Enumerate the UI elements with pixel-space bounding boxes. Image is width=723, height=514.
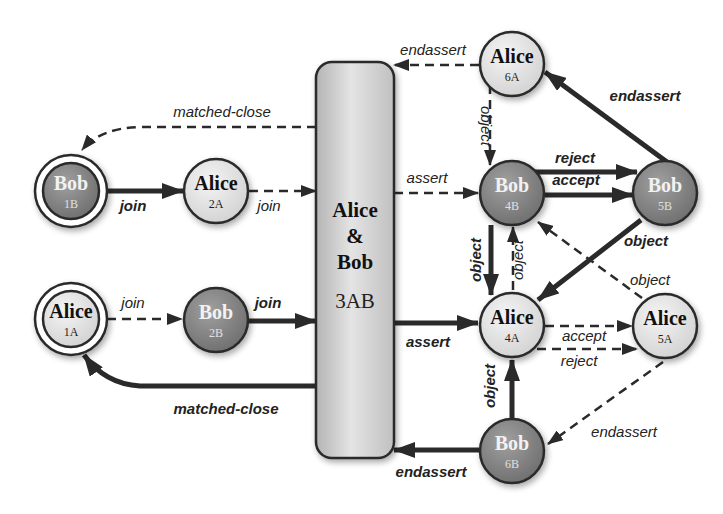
- box-label-ampersand: &: [346, 224, 364, 248]
- node-1b-id: 1B: [64, 197, 78, 211]
- label-reject-4a-5a: reject: [561, 352, 599, 369]
- node-6b-name: Bob: [495, 432, 529, 454]
- node-4b-id: 4B: [505, 199, 519, 213]
- label-endassert-6a-3ab: endassert: [400, 41, 467, 58]
- label-object-4b-4a: object: [467, 237, 484, 282]
- label-object-4a-4b: object: [509, 239, 526, 280]
- node-4a-name: Alice: [490, 306, 533, 328]
- node-5b-id: 5B: [658, 199, 672, 213]
- label-join-2b-3ab: join: [253, 294, 282, 311]
- node-2a-name: Alice: [194, 172, 237, 194]
- label-object-6a-4b: object: [478, 106, 495, 147]
- node-6a-name: Alice: [490, 45, 533, 67]
- node-5a-name: Alice: [643, 307, 686, 329]
- label-join-2a-3ab: join: [255, 197, 280, 214]
- label-reject-4b-5b: reject: [555, 149, 596, 166]
- node-2b-id: 2B: [209, 326, 223, 340]
- node-4b-name: Bob: [495, 174, 529, 196]
- box-label-bob: Bob: [337, 250, 373, 274]
- edge-matched-close-top: [82, 127, 316, 150]
- box-id: 3AB: [335, 289, 375, 313]
- node-6a-id: 6A: [505, 70, 520, 84]
- label-matched-close-top: matched-close: [173, 103, 271, 120]
- node-5a-id: 5A: [658, 332, 673, 346]
- node-1a-id: 1A: [64, 325, 79, 339]
- node-1a-name: Alice: [49, 300, 92, 322]
- label-matched-close-bottom: matched-close: [173, 400, 278, 417]
- label-assert-3ab-4b: assert: [407, 169, 449, 186]
- label-object-5a-4b: object: [630, 271, 671, 288]
- label-join-1b-2a: join: [118, 197, 147, 214]
- label-endassert-5a-6b: endassert: [591, 423, 658, 440]
- label-endassert-5b-6a: endassert: [610, 87, 682, 104]
- node-4a-id: 4A: [505, 331, 520, 345]
- label-accept-4a-5a: accept: [562, 327, 607, 344]
- node-1b-name: Bob: [54, 172, 88, 194]
- label-object-6b-4a: object: [481, 363, 498, 408]
- label-accept-4b-5b: accept: [552, 171, 601, 188]
- node-2b-name: Bob: [199, 301, 233, 323]
- label-join-1a-2b: join: [119, 294, 144, 311]
- label-object-5b-4a: object: [624, 232, 669, 249]
- box-label-alice: Alice: [332, 198, 377, 222]
- node-6b-id: 6B: [505, 457, 519, 471]
- edge-matched-close-bottom: [84, 355, 316, 386]
- label-assert-3ab-4a: assert: [406, 333, 451, 350]
- protocol-state-diagram: Alice & Bob 3AB Bob 1B Alice 2A Alice 1A…: [0, 0, 723, 514]
- label-endassert-6b-3ab: endassert: [396, 463, 468, 480]
- node-2a-id: 2A: [209, 197, 224, 211]
- node-5b-name: Bob: [648, 174, 682, 196]
